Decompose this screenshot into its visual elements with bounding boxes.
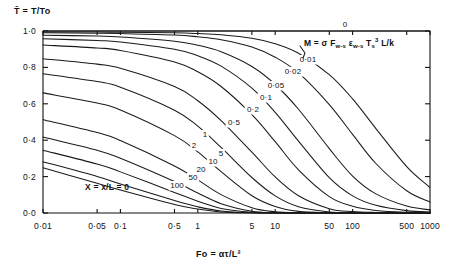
x-axis-tick-labels: 0·010·050·10·51510501005001000 [34, 221, 440, 231]
formula-annotation: M = σ Fw-s εw-s Ts3 L/k [304, 37, 394, 49]
x-tick-label: 100 [345, 221, 360, 231]
chart-page: 0·010·050·10·51510501005001000 1·00·80·6… [0, 0, 456, 266]
curve-0.01 [43, 32, 430, 188]
curve-label-0.1: 0·1 [260, 93, 272, 102]
x-tick-label: 50 [324, 221, 334, 231]
curve-label-100: 100 [170, 181, 184, 190]
curve-label-0.2: 0·2 [247, 105, 259, 114]
curve-label-0: 0 [343, 20, 348, 29]
inside-plot-label: X = x/L = 0 [85, 182, 129, 192]
x-tick-label: 5 [249, 221, 254, 231]
x-tick-label: 1 [195, 221, 200, 231]
formula-sub-ws1: w-s [335, 43, 347, 49]
y-tick-label: 0·0 [23, 208, 36, 218]
y-tick-label: 0·8 [23, 62, 36, 72]
y-axis-title: T̄ = T/To [14, 6, 51, 16]
x-axis-title-text: Fo = ατ/L² [196, 249, 241, 259]
curve-label-50: 50 [188, 173, 198, 182]
x-tick-label: 500 [399, 221, 414, 231]
formula-sub-ws2: w-s [352, 43, 364, 49]
x-tick-label: 1000 [420, 221, 440, 231]
curve-label-0.02: 0·02 [285, 67, 302, 76]
x-tick-label: 0·5 [168, 221, 181, 231]
curve-2 [43, 93, 430, 213]
curve-label-2: 2 [192, 141, 197, 150]
curve-label-0.01: 0·01 [300, 55, 317, 64]
y-tick-label: 0·4 [23, 135, 36, 145]
formula-part-main: M = σ F [304, 38, 336, 48]
y-tick-label: 1·0 [23, 26, 36, 36]
x-tick-label: 0·05 [88, 221, 106, 231]
y-tick-label: 0·6 [23, 99, 36, 109]
y-axis-tick-labels: 1·00·80·60·40·20·0 [23, 26, 36, 218]
curve-label-20: 20 [196, 165, 206, 174]
curve-label-1: 1 [203, 130, 208, 139]
curve-label-10: 10 [208, 157, 218, 166]
chart-canvas: 0·010·050·10·51510501005001000 1·00·80·6… [0, 0, 456, 266]
curve-label-0.5: 0·5 [228, 118, 240, 127]
curve-label-0.05: 0·05 [268, 81, 285, 90]
x-tick-label: 0·01 [34, 221, 52, 231]
y-tick-label: 0·2 [23, 172, 36, 182]
x-tick-label: 0·1 [114, 221, 127, 231]
x-tick-label: 10 [270, 221, 280, 231]
formula-part-mid: ε [346, 38, 353, 48]
curve-label-5: 5 [219, 149, 224, 158]
formula-part-tail: L/k [379, 38, 395, 48]
curve-5 [43, 120, 430, 213]
formula-sub-s: s [372, 43, 376, 49]
x-axis-title: Fo = ατ/L² [196, 249, 241, 259]
